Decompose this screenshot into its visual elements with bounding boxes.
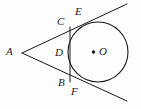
point-label-d: D [55,47,63,58]
point-label-a: A [6,46,13,57]
point-label-b: B [58,77,65,88]
main-circle [68,22,128,82]
point-label-e: E [75,6,82,17]
circle-center-dot [92,50,95,53]
point-label-o: O [99,46,107,57]
point-label-c: C [57,16,64,27]
geometry-figure: A C E D O B F [0,0,141,109]
point-label-f: F [71,86,78,97]
